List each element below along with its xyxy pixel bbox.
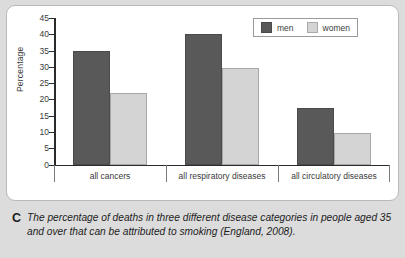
chart-panel: Percentage 051015202530354045 all cancer… bbox=[6, 5, 399, 201]
y-tick-mark bbox=[49, 132, 54, 133]
y-tick-label: 30 bbox=[9, 62, 49, 72]
y-tick-mark bbox=[49, 116, 54, 117]
y-tick-mark bbox=[49, 18, 54, 19]
y-tick-label: 25 bbox=[9, 78, 49, 88]
y-tick-mark bbox=[49, 148, 54, 149]
y-tick-mark bbox=[49, 99, 54, 100]
caption-text: The percentage of deaths in three differ… bbox=[27, 211, 395, 239]
x-axis-label-1: all cancers bbox=[54, 171, 166, 181]
y-tick-label: 40 bbox=[9, 29, 49, 39]
x-axis-label-3: all circulatory diseases bbox=[278, 171, 390, 181]
legend-item-women: women bbox=[307, 22, 350, 33]
x-axis-line bbox=[54, 165, 390, 167]
legend-swatch-men-icon bbox=[261, 22, 272, 33]
y-tick-mark bbox=[49, 83, 54, 84]
x-axis-label-2: all respiratory diseases bbox=[166, 171, 278, 181]
y-tick-label: 0 bbox=[9, 160, 49, 170]
figure-caption: C The percentage of deaths in three diff… bbox=[0, 206, 405, 239]
y-tick-mark bbox=[49, 34, 54, 35]
bar-men-1 bbox=[73, 51, 110, 165]
legend-label-women: women bbox=[323, 23, 350, 33]
bar-men-2 bbox=[185, 34, 222, 164]
y-axis-line bbox=[54, 18, 56, 166]
plot-area: 051015202530354045 bbox=[54, 18, 390, 166]
chart-legend: men women bbox=[253, 18, 358, 37]
y-tick-label: 5 bbox=[9, 143, 49, 153]
y-tick-label: 15 bbox=[9, 111, 49, 121]
figure-container: Percentage 051015202530354045 all cancer… bbox=[0, 0, 405, 258]
y-tick-label: 10 bbox=[9, 127, 49, 137]
legend-swatch-women-icon bbox=[307, 22, 318, 33]
caption-letter: C bbox=[12, 211, 21, 225]
legend-label-men: men bbox=[277, 23, 294, 33]
y-tick-label: 45 bbox=[9, 13, 49, 23]
y-tick-label: 35 bbox=[9, 46, 49, 56]
y-tick-mark bbox=[49, 51, 54, 52]
bar-men-3 bbox=[297, 108, 334, 164]
y-tick-label: 20 bbox=[9, 94, 49, 104]
bar-women-3 bbox=[334, 133, 371, 165]
y-tick-mark bbox=[49, 67, 54, 68]
bar-women-2 bbox=[222, 68, 259, 164]
bar-women-1 bbox=[110, 93, 147, 165]
legend-item-men: men bbox=[261, 22, 294, 33]
